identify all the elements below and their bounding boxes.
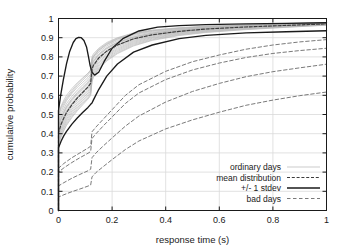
x-tick-label-1: 0.2 [106, 215, 119, 225]
legend-label-3: bad days [247, 194, 282, 204]
legend-label-2: +/- 1 stdev [241, 183, 282, 193]
y-tick-label-10: 1 [48, 14, 53, 24]
x-axis-title: response time (s) [156, 234, 229, 245]
chart-figure: 00.20.40.60.81 00.10.20.30.40.50.60.70.8… [0, 0, 342, 251]
y-tick-label-2: 0.2 [41, 167, 54, 177]
y-axis-title: cumulative probability [4, 69, 15, 161]
cdf-chart: 00.20.40.60.81 00.10.20.30.40.50.60.70.8… [0, 0, 342, 251]
x-tick-label-3: 0.6 [213, 215, 226, 225]
legend-label-1: mean distribution [216, 173, 281, 183]
legend-label-0: ordinary days [230, 162, 281, 172]
y-tick-label-9: 0.9 [41, 33, 54, 43]
x-tick-label-0: 0 [56, 215, 61, 225]
y-tick-label-5: 0.5 [41, 110, 54, 120]
y-tick-label-0: 0 [48, 206, 53, 216]
y-tick-label-1: 0.1 [41, 187, 54, 197]
x-tick-label-4: 0.8 [267, 215, 280, 225]
y-tick-label-4: 0.4 [41, 129, 54, 139]
y-tick-label-7: 0.7 [41, 71, 54, 81]
y-tick-label-3: 0.3 [41, 148, 54, 158]
y-tick-label-6: 0.6 [41, 91, 54, 101]
y-tick-label-8: 0.8 [41, 52, 54, 62]
x-tick-label-5: 1 [324, 215, 329, 225]
x-tick-label-2: 0.4 [159, 215, 172, 225]
